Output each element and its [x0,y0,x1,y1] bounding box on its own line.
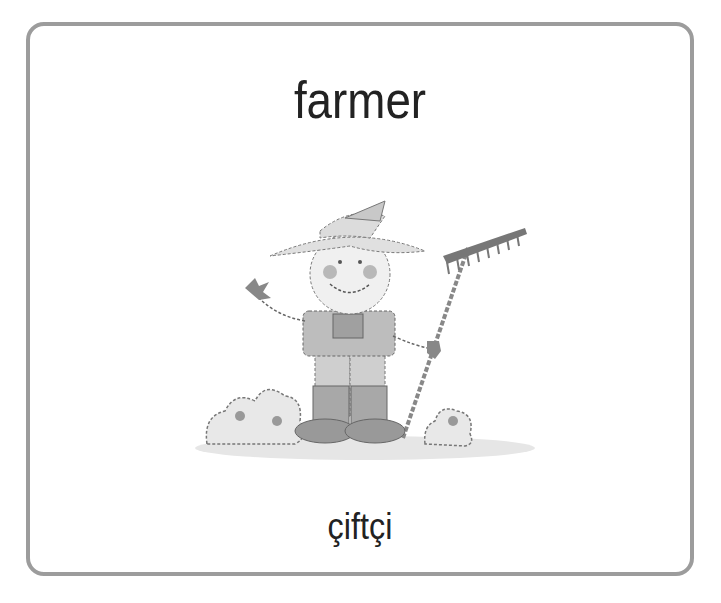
flashcard: farmer [26,22,694,576]
turkish-word: çiftçi [63,506,657,548]
english-word: farmer [70,70,651,130]
farmer-illustration [185,176,545,476]
